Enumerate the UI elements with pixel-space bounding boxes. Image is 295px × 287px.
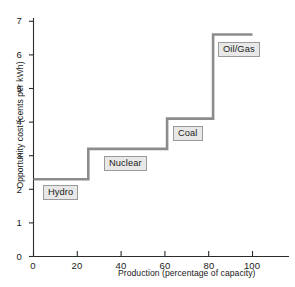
y-tick-label-7: 7 <box>6 15 22 26</box>
x-tick-label-0: 0 <box>20 260 46 271</box>
y-tick-label-1: 1 <box>6 217 22 228</box>
series-label-nuclear: Nuclear <box>104 156 147 171</box>
x-axis-title: Production (percentage of capacity) <box>118 268 255 278</box>
y-axis-title: Opportunity cost (cents per kWh) <box>15 50 25 200</box>
series-label-coal: Coal <box>173 126 203 141</box>
y-tick-marks <box>29 21 34 256</box>
series-label-hydro: Hydro <box>43 185 78 200</box>
step-chart: 0 1 2 3 4 5 6 7 0 20 40 60 80 100 Opport… <box>0 0 295 287</box>
series-label-oil-gas: Oil/Gas <box>218 42 260 57</box>
x-tick-label-20: 20 <box>64 260 90 271</box>
x-tick-marks <box>34 251 253 257</box>
